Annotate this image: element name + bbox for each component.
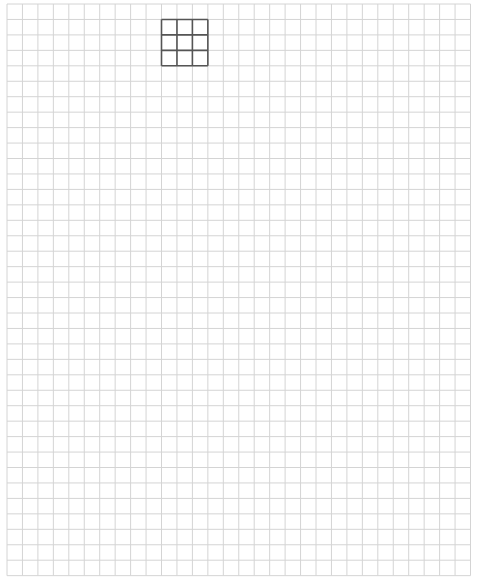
grid-lines — [7, 4, 471, 576]
graph-paper-grid — [0, 0, 478, 588]
highlighted-3x3-box — [162, 19, 208, 65]
